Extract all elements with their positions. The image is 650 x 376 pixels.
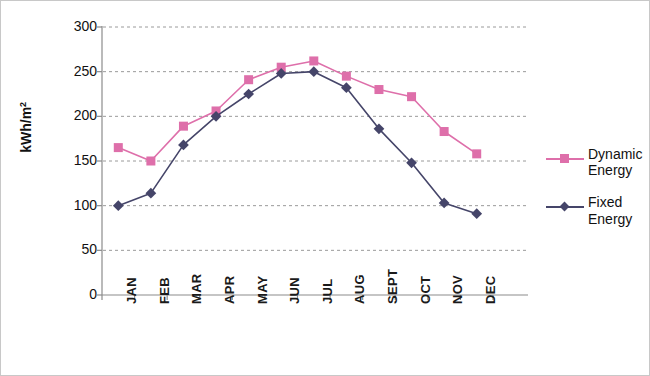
data-point-marker [374, 85, 383, 94]
legend-marker-diamond-icon [546, 201, 584, 213]
data-point-marker [146, 188, 157, 199]
x-axis-tick-label: JUN [287, 277, 302, 304]
data-point-marker [472, 149, 481, 158]
data-point-marker [407, 92, 416, 101]
legend-symbol [560, 154, 569, 163]
data-point-marker [146, 157, 155, 166]
data-point-marker [179, 122, 188, 131]
line-chart: kWh/m2 050100150200250300 JANFEBMARAPRMA… [1, 1, 649, 375]
legend-entry: DynamicEnergy [546, 146, 650, 178]
x-axis-tick-label: NOV [450, 275, 465, 304]
data-point-marker [471, 208, 482, 219]
data-point-marker [243, 89, 254, 100]
series-line-1 [118, 61, 476, 161]
x-axis-tick-label: JAN [124, 277, 139, 304]
data-point-marker [342, 72, 351, 81]
data-point-marker [244, 75, 253, 84]
chart-screenshot: kWh/m2 050100150200250300 JANFEBMARAPRMA… [0, 0, 650, 376]
series-line-2 [118, 72, 476, 214]
data-point-marker [308, 66, 319, 77]
x-axis-tick-label: MAR [189, 273, 204, 304]
legend-marker-square-icon [546, 153, 584, 165]
x-axis-tick-label: OCT [418, 276, 433, 304]
x-axis-tick-label: JUL [320, 279, 335, 304]
data-point-marker [114, 143, 123, 152]
x-axis-tick-label: MAY [255, 275, 270, 304]
x-axis-tick-label: APR [222, 276, 237, 304]
x-axis-tick-label: SEPT [385, 269, 400, 304]
x-axis-tick-label: FEB [157, 277, 172, 304]
chart-legend: DynamicEnergyFixedEnergy [546, 146, 650, 243]
data-point-marker [309, 56, 318, 65]
x-axis-tick-label: DEC [483, 276, 498, 304]
x-axis-tick-label: AUG [352, 274, 367, 304]
legend-entry: FixedEnergy [546, 194, 650, 226]
data-point-marker [440, 127, 449, 136]
legend-symbol [560, 202, 570, 212]
data-point-marker [113, 200, 124, 211]
